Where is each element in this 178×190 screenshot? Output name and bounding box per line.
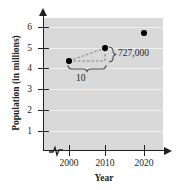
x-axis-title: Year (54, 173, 154, 183)
y-tick-1 (38, 131, 49, 132)
x-tick-label-2020: 2020 (124, 159, 164, 169)
y-tick-6 (38, 27, 49, 28)
gridline-1 (44, 131, 163, 132)
data-point-2010 (102, 45, 107, 50)
gridline-6 (44, 27, 163, 28)
x-tick-2020 (144, 145, 145, 156)
gridline-2 (44, 110, 163, 111)
x-tick-label-2010: 2010 (85, 159, 125, 169)
plot-area (44, 18, 163, 150)
x-axis-arrow-icon (164, 147, 172, 155)
gridline-4 (44, 68, 163, 69)
run-annotation-label: 10 (76, 74, 86, 84)
y-tick-4 (38, 68, 49, 69)
data-point-2000 (66, 58, 71, 63)
y-tick-5 (38, 48, 49, 49)
rise-annotation-label: 727,000 (118, 49, 149, 59)
population-scatter-chart: 6 5 4 3 2 1 2000 2010 2020 Population (i… (0, 0, 178, 190)
data-point-2020 (141, 30, 146, 35)
y-tick-2 (38, 110, 49, 111)
axis-break-icon (49, 143, 63, 157)
gridline-3 (44, 89, 163, 90)
x-tick-label-2000: 2000 (49, 159, 89, 169)
y-axis-title: Population (in millions) (11, 13, 21, 153)
y-axis-arrow-icon (39, 8, 47, 16)
x-tick-2010 (105, 145, 106, 156)
y-tick-3 (38, 89, 49, 90)
x-tick-2000 (69, 145, 70, 156)
